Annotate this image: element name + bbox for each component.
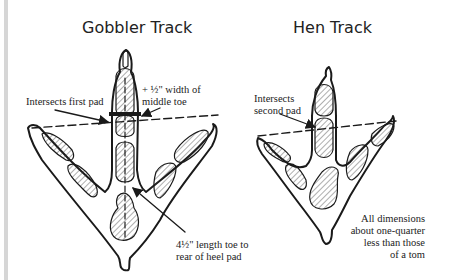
hen-pad [315,85,333,117]
track-drawings [0,0,449,280]
hen-pad [315,118,333,158]
gobbler-width-arrow [142,108,160,116]
hen-heel-pad [310,167,339,209]
gobbler-pad [154,163,176,198]
hen-pad [371,124,394,146]
hen-intersects-arrow [280,114,315,127]
gobbler-intersects-arrow [55,110,108,122]
hen-track [257,67,396,244]
hen-pad [346,145,368,180]
gobbler-pad [68,164,98,197]
hen-pad [264,143,290,162]
gobbler-track [28,50,218,270]
gobbler-pad [42,133,74,161]
